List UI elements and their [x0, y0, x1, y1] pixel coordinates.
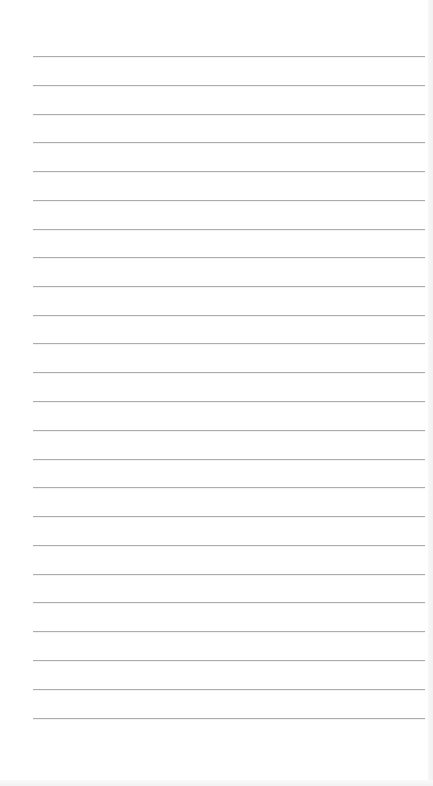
- ruled-line: [33, 56, 425, 57]
- ruled-line: [33, 602, 425, 603]
- ruled-line: [33, 459, 425, 460]
- ruled-line: [33, 229, 425, 230]
- page-bottom-edge: [0, 780, 433, 786]
- ruled-line: [33, 85, 425, 86]
- ruled-line: [33, 689, 425, 690]
- ruled-line: [33, 516, 425, 517]
- ruled-line: [33, 372, 425, 373]
- ruled-line: [33, 718, 425, 719]
- ruled-line: [33, 487, 425, 488]
- page-right-edge: [428, 0, 433, 786]
- ruled-line: [33, 660, 425, 661]
- ruled-line: [33, 401, 425, 402]
- ruled-line: [33, 545, 425, 546]
- ruled-line: [33, 171, 425, 172]
- ruled-line: [33, 200, 425, 201]
- ruled-page: [0, 0, 433, 786]
- ruled-line: [33, 315, 425, 316]
- ruled-line: [33, 142, 425, 143]
- ruled-line: [33, 286, 425, 287]
- ruled-line: [33, 430, 425, 431]
- ruled-line: [33, 114, 425, 115]
- ruled-line: [33, 631, 425, 632]
- ruled-line: [33, 574, 425, 575]
- ruled-line: [33, 257, 425, 258]
- ruled-line: [33, 343, 425, 344]
